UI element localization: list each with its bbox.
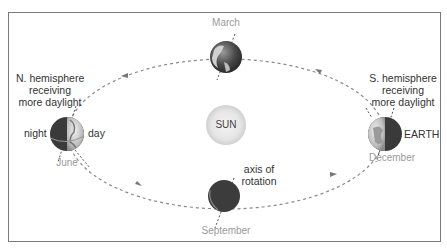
sun-label: SUN (211, 119, 241, 130)
earth-march-icon (210, 34, 242, 80)
day-label: day (88, 127, 105, 139)
annotation-line: receiving (368, 84, 438, 96)
orbit-arrow-icon (121, 73, 128, 78)
annotation-line: more daylight (368, 96, 438, 108)
month-label-december: December (364, 152, 420, 164)
s-hemisphere-annotation: S. hemisphere receiving more daylight (368, 72, 438, 108)
orbit-arrow-icon (135, 181, 142, 186)
month-label-september: September (196, 225, 256, 237)
annotation-line: more daylight (16, 96, 84, 108)
orbit-arrow-icon (315, 69, 322, 74)
night-label: night (24, 127, 47, 139)
annotation-line: S. hemisphere (368, 72, 438, 84)
annotation-line: axis of (236, 163, 282, 175)
month-label-march: March (205, 17, 247, 29)
earth-label: EARTH (404, 128, 439, 140)
annotation-line: N. hemisphere (16, 72, 84, 84)
annotation-line: receiving (16, 84, 84, 96)
orbit-arrow-icon (330, 172, 337, 177)
month-label-june: June (52, 157, 82, 169)
n-hemisphere-annotation: N. hemisphere receiving more daylight (16, 72, 84, 108)
axis-of-rotation-annotation: axis of rotation (236, 163, 282, 187)
annotation-line: rotation (236, 175, 282, 187)
